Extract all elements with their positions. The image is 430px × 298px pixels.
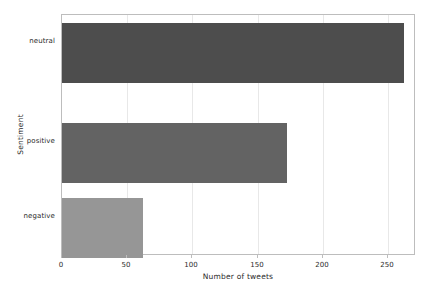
y-tick-label-negative: negative bbox=[0, 212, 55, 220]
x-tick-label-0: 0 bbox=[41, 261, 81, 269]
x-tick-label-100: 100 bbox=[171, 261, 211, 269]
x-tickmark-0 bbox=[61, 255, 62, 258]
x-tickmark-200 bbox=[322, 255, 323, 258]
bar-positive[interactable] bbox=[62, 123, 287, 183]
x-tick-label-50: 50 bbox=[106, 261, 146, 269]
plot-area bbox=[61, 14, 415, 255]
bar-chart-figure: Sentiment neutral positive negative 0 50… bbox=[0, 0, 430, 298]
y-tick-label-neutral: neutral bbox=[0, 37, 55, 45]
x-tickmark-250 bbox=[387, 255, 388, 258]
x-tick-label-150: 150 bbox=[237, 261, 277, 269]
x-tickmark-150 bbox=[257, 255, 258, 258]
x-tickmark-100 bbox=[191, 255, 192, 258]
x-tickmark-50 bbox=[126, 255, 127, 258]
x-axis-title: Number of tweets bbox=[61, 272, 415, 281]
bar-negative[interactable] bbox=[62, 198, 143, 258]
bar-neutral[interactable] bbox=[62, 23, 404, 83]
x-tick-label-250: 250 bbox=[367, 261, 407, 269]
y-tick-label-positive: positive bbox=[0, 137, 55, 145]
x-tick-label-200: 200 bbox=[302, 261, 342, 269]
